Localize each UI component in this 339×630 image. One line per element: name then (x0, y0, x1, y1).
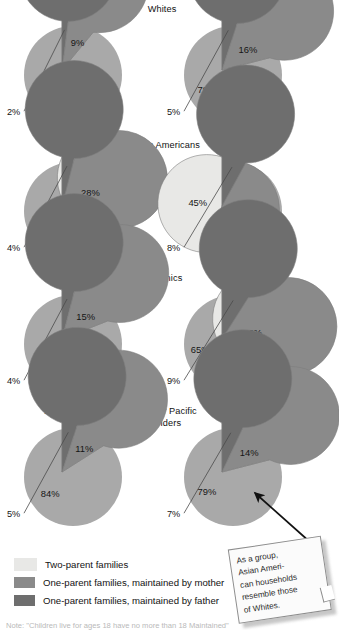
african-americans-2000-label-two_parent: 45% (188, 197, 207, 208)
legend-swatch-father (14, 595, 35, 606)
pie-chart-figure: 1970Whites200089%9%2%79%16%5%1970African… (0, 0, 339, 630)
hispanics-1970-label-father: 4% (7, 376, 20, 386)
source-note: Note: "Children live for ages 18 have no… (6, 621, 306, 630)
legend-label-father: One-parent families, maintained by fathe… (43, 595, 219, 606)
legend: Two-parent familiesOne-parent families, … (14, 556, 259, 610)
asians-or-pacific-islanders-1980-label-mother: 11% (75, 443, 93, 454)
whites-2000-label-father: 5% (167, 107, 180, 117)
asians-or-pacific-islanders-1980-label-father: 5% (7, 509, 20, 519)
asians-or-pacific-islanders-1980-label-two_parent: 84% (41, 488, 60, 499)
hispanics-1970-label-mother: 15% (76, 311, 95, 322)
hispanics-2000-label-father: 9% (167, 376, 180, 386)
whites-2000-label-mother: 16% (239, 44, 258, 55)
asians-or-pacific-islanders-2000-label-mother: 14% (240, 447, 259, 458)
asians-or-pacific-islanders-1980-pie-container: 84%11%5% (6, 420, 156, 524)
legend-item-two_parent: Two-parent families (14, 556, 259, 572)
legend-label-two_parent: Two-parent families (45, 559, 128, 570)
asians-or-pacific-islanders-2000-label-two_parent: 79% (198, 486, 217, 497)
sticky-note-text: As a group,Asian Ameri-can householdsres… (236, 543, 326, 616)
whites-1970-label-mother: 9% (71, 37, 85, 48)
legend-label-mother: One-parent families, maintained by mothe… (43, 577, 224, 588)
legend-swatch-two_parent (14, 558, 37, 571)
african-americans-2000-label-father: 8% (167, 243, 180, 253)
sticky-note-annotation: As a group,Asian Ameri-can householdsres… (228, 535, 335, 626)
whites-1970-label-father: 2% (7, 107, 20, 117)
asians-or-pacific-islanders-2000-label-father: 7% (167, 509, 180, 519)
legend-item-mother: One-parent families, maintained by mothe… (14, 574, 259, 590)
legend-swatch-mother (14, 577, 35, 588)
asians-or-pacific-islanders-1980-pie: 84%11%5% (6, 420, 156, 524)
legend-item-father: One-parent families, maintained by fathe… (14, 592, 259, 608)
african-americans-1970-label-father: 4% (7, 243, 20, 253)
